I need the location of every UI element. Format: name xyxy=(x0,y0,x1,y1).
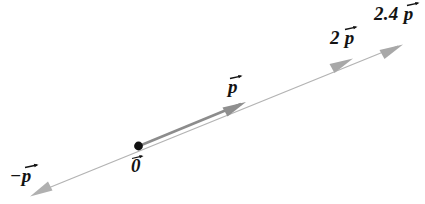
label-2p-text: 2 p xyxy=(330,27,355,48)
vector-diagram-canvas: −p 0 p 2 p xyxy=(0,0,425,204)
label-p: p xyxy=(228,77,238,96)
label-zero-vector: 0 xyxy=(131,156,141,175)
vector-line-graphic xyxy=(0,0,425,204)
label-zero-vector-text: 0 xyxy=(131,155,141,176)
arrowhead-negative-p xyxy=(30,182,53,197)
label-negative-p-text: −p xyxy=(10,165,32,186)
arrowhead-2.4p xyxy=(380,45,404,60)
origin-dot xyxy=(134,142,143,151)
label-p-text: p xyxy=(228,76,238,97)
label-2.4p-text: 2.4 p xyxy=(374,3,414,24)
label-2p: 2 p xyxy=(330,28,355,47)
vector-axis-line xyxy=(36,46,398,193)
label-2.4p: 2.4 p xyxy=(374,4,414,23)
label-negative-p: −p xyxy=(10,166,32,185)
